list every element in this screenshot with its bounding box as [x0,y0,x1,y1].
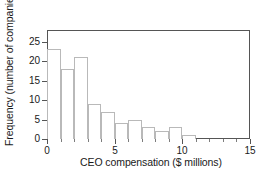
histogram-bar [142,127,156,139]
histogram-figure: Frequency (number of companies) 05101520… [0,0,262,178]
x-tick-minor-mark [155,139,156,142]
histogram-bar [115,123,129,139]
x-tick-minor-mark [128,139,129,142]
histogram-bar [128,120,142,139]
histogram-bar [169,127,183,139]
x-tick-minor-mark [101,139,102,142]
y-tick-label: 10 [2,95,40,105]
y-tick-label: 15 [2,76,40,86]
histogram-bar [47,49,61,139]
x-tick-minor-mark [74,139,75,142]
histogram-bar [88,104,102,139]
x-tick-minor-mark [223,139,224,142]
x-tick-minor-mark [142,139,143,142]
x-tick-minor-mark [61,139,62,142]
histogram-bar [74,57,88,139]
histogram-bar [101,112,115,139]
x-tick-mark [182,139,183,144]
y-tick-label: 25 [2,37,40,47]
x-tick-minor-mark [196,139,197,142]
histogram-bar [61,69,75,139]
x-tick-minor-mark [236,139,237,142]
x-tick-mark [115,139,116,144]
histogram-bars [47,30,250,139]
x-tick-mark [47,139,48,144]
x-tick-minor-mark [169,139,170,142]
x-tick-mark [250,139,251,144]
x-tick-minor-mark [209,139,210,142]
y-tick-label: 5 [2,115,40,125]
histogram-bar [182,135,196,139]
y-tick-label: 0 [2,134,40,144]
x-axis-label: CEO compensation ($ millions) [40,156,262,168]
y-tick-label: 20 [2,56,40,66]
histogram-bar [155,131,169,139]
x-tick-minor-mark [88,139,89,142]
